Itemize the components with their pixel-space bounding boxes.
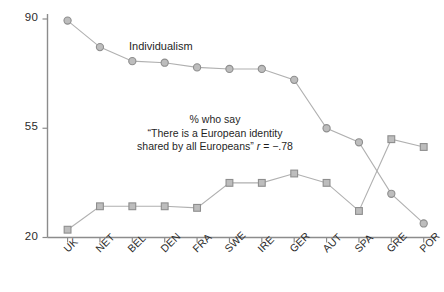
data-point-marker: [129, 58, 136, 65]
data-point-marker: [258, 65, 265, 72]
data-point-marker: [291, 76, 298, 83]
data-point-marker: [388, 136, 395, 143]
data-point-marker: [420, 144, 427, 151]
data-point-marker: [129, 203, 136, 210]
chart-container: 905520 UKNETBELDENFRASWEIREGERAUTSPAGREP…: [0, 0, 444, 292]
data-point-marker: [194, 204, 201, 211]
annotation-line-3: shared by all Europeans” r = −.78: [105, 140, 325, 154]
data-point-marker: [97, 203, 104, 210]
series-label-individualism: Individualism: [129, 40, 193, 52]
data-point-marker: [226, 179, 233, 186]
data-point-marker: [388, 190, 395, 197]
y-axis-tick-label: 20: [12, 230, 38, 242]
data-point-marker: [258, 179, 265, 186]
data-point-marker: [96, 43, 103, 50]
data-point-marker: [356, 208, 363, 215]
data-point-marker: [64, 226, 71, 233]
data-point-marker: [226, 65, 233, 72]
data-point-marker: [161, 203, 168, 210]
annotation-stat-value: = −.78: [260, 140, 293, 152]
data-point-marker: [355, 139, 362, 146]
annotation-correlation: % who say “There is a European identity …: [105, 113, 325, 154]
data-point-marker: [420, 220, 427, 227]
y-axis-tick-label: 55: [12, 120, 38, 132]
y-axis-tick-label: 90: [12, 11, 38, 23]
data-point-marker: [64, 17, 71, 24]
annotation-line-2: “There is a European identity: [105, 127, 325, 141]
annotation-line-3-prefix: shared by all Europeans”: [137, 140, 257, 152]
data-point-marker: [193, 64, 200, 71]
data-point-marker: [161, 59, 168, 66]
annotation-line-1: % who say: [105, 113, 325, 127]
data-point-marker: [323, 179, 330, 186]
data-point-marker: [291, 170, 298, 177]
y-axis-ticks: [43, 19, 48, 238]
